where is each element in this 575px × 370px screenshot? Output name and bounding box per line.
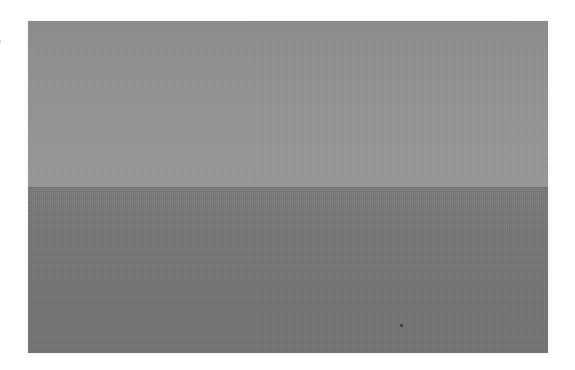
- dark-speck: [400, 324, 403, 327]
- lower-gray-band: [28, 188, 548, 353]
- upper-gray-band: [28, 21, 548, 187]
- edge-artifact: [0, 40, 1, 43]
- image-canvas: [0, 0, 575, 370]
- photograph: [28, 21, 548, 353]
